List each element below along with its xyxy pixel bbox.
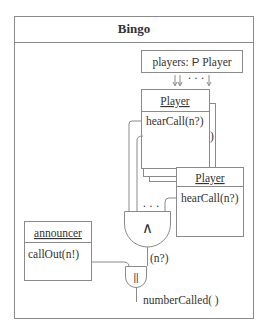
and-output-label: (n?): [150, 252, 169, 265]
parallel-symbol: ||: [133, 272, 138, 283]
player-second-class: Player: [195, 172, 225, 185]
announcer-operation: callOut(n!): [28, 248, 79, 261]
diagram-title: Bingo: [118, 21, 151, 36]
player-front-class: Player: [160, 95, 190, 108]
back-stack-fragment: ): [210, 130, 214, 143]
output-operation: numberCalled( ): [143, 294, 219, 307]
players-set-label: players: P Player: [152, 56, 231, 69]
and-symbol: ∧: [142, 219, 153, 236]
player-second-operation: hearCall(n?): [181, 192, 239, 205]
announcer-class: announcer: [34, 227, 82, 239]
player-front-operation: hearCall(n?): [146, 115, 204, 128]
arrows-ellipsis: · · ·: [187, 72, 204, 84]
and-inputs-ellipsis: · · ·: [142, 200, 159, 212]
bingo-diagram: Bingo players: P Player · · · Player hea…: [0, 0, 268, 332]
